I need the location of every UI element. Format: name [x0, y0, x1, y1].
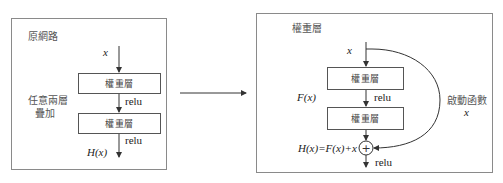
skip-connection-label-line2: x: [464, 106, 469, 118]
sum-equation-label: H(x)=F(x)+x: [298, 142, 357, 154]
skip-connection-label-line1: 啟動函數: [447, 92, 487, 107]
left-relu-2: relu: [125, 134, 142, 146]
left-weight-layer-2-label: 權重層: [105, 117, 134, 130]
left-output-label: H(x): [87, 146, 107, 158]
residual-function-label: F(x): [297, 91, 316, 103]
right-input-label: x: [347, 44, 352, 56]
left-input-label: x: [103, 46, 108, 58]
right-weight-layer-1: 權重層: [327, 67, 404, 90]
left-side-label-line2: 疊加: [35, 105, 55, 120]
right-weight-layer-1-label: 權重層: [351, 72, 380, 85]
right-weight-layer-2: 權重層: [327, 107, 404, 130]
left-relu-1: relu: [125, 95, 142, 107]
left-weight-layer-2: 權重層: [78, 113, 161, 134]
right-weight-layer-2-label: 權重層: [351, 112, 380, 125]
right-output-relu: relu: [375, 156, 392, 168]
right-relu-1: relu: [374, 91, 391, 103]
original-network-title: 原網路: [28, 28, 58, 43]
left-weight-layer-1: 權重層: [78, 73, 161, 94]
residual-block-title: 權重層: [292, 20, 322, 35]
left-weight-layer-1-label: 權重層: [105, 77, 134, 90]
